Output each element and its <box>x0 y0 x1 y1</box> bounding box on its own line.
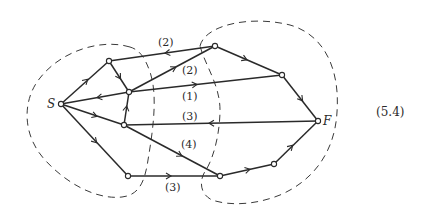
node-D <box>125 173 130 178</box>
node-S <box>58 101 63 106</box>
edge-T-R <box>215 46 282 75</box>
node-A <box>106 58 111 63</box>
source-side-cut-region <box>27 44 154 197</box>
node-B <box>126 89 131 94</box>
edge-E-G <box>220 164 274 176</box>
edge-B-S <box>61 92 129 104</box>
edge-label-D-E: (3) <box>165 181 181 194</box>
edge-A-B <box>109 61 129 92</box>
edge-B-T <box>129 46 215 92</box>
edge-label-B-T: (2) <box>182 64 198 77</box>
edge-label-F-C: (3) <box>182 110 198 123</box>
equation-number: (5.4) <box>376 105 404 119</box>
node-G <box>271 161 276 166</box>
edge-label-B-R: (1) <box>182 90 198 103</box>
edge-G-F <box>274 121 318 164</box>
node-C <box>121 122 126 127</box>
node-R <box>279 72 284 77</box>
network-flow-diagram: S F (2) (2) (1) (3) (4) (3) (5.4) <box>0 0 426 222</box>
node-E <box>217 173 222 178</box>
node-F <box>315 118 320 123</box>
source-label: S <box>47 97 55 111</box>
edge-label-C-E: (4) <box>181 138 197 151</box>
sink-label: F <box>322 114 332 128</box>
edge-label-T-A: (2) <box>158 36 174 49</box>
node-T <box>212 43 217 48</box>
edge-C-E <box>124 125 220 176</box>
edge-R-F <box>282 75 318 121</box>
